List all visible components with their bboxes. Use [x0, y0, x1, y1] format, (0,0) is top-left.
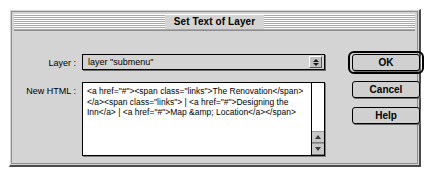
new-html-textarea[interactable]: <a href="#"><span class="links">The Reno… — [82, 82, 325, 156]
help-button[interactable]: Help — [352, 107, 420, 124]
ok-button[interactable]: OK — [352, 54, 420, 71]
scroll-up-button[interactable] — [312, 131, 324, 143]
scroll-up-arrow-icon — [315, 135, 321, 139]
dialog-body: Layer : layer "submenu" New HTML : <a hr… — [14, 32, 415, 161]
scrollbar-track[interactable] — [312, 83, 324, 131]
dialog-title: Set Text of Layer — [165, 15, 265, 29]
layer-select-value: layer "submenu" — [83, 56, 309, 68]
new-html-label: New HTML : — [18, 86, 76, 96]
scroll-down-arrow-icon — [315, 147, 321, 151]
textarea-scrollbar[interactable] — [311, 83, 324, 155]
layer-select-stepper[interactable] — [309, 56, 322, 68]
triangle-up-icon — [313, 59, 319, 62]
screen: Set Text of Layer Layer : layer "submenu… — [0, 0, 430, 184]
set-text-of-layer-dialog: Set Text of Layer Layer : layer "submenu… — [9, 9, 421, 167]
scroll-down-button[interactable] — [312, 143, 324, 155]
cancel-button[interactable]: Cancel — [352, 81, 420, 98]
new-html-textarea-value[interactable]: <a href="#"><span class="links">The Reno… — [83, 83, 311, 155]
layer-label: Layer : — [18, 58, 76, 68]
dialog-titlebar[interactable]: Set Text of Layer — [14, 14, 415, 31]
layer-select[interactable]: layer "submenu" — [82, 54, 325, 70]
triangle-down-icon — [313, 63, 319, 66]
dialog-inner-frame: Set Text of Layer Layer : layer "submenu… — [11, 11, 418, 164]
